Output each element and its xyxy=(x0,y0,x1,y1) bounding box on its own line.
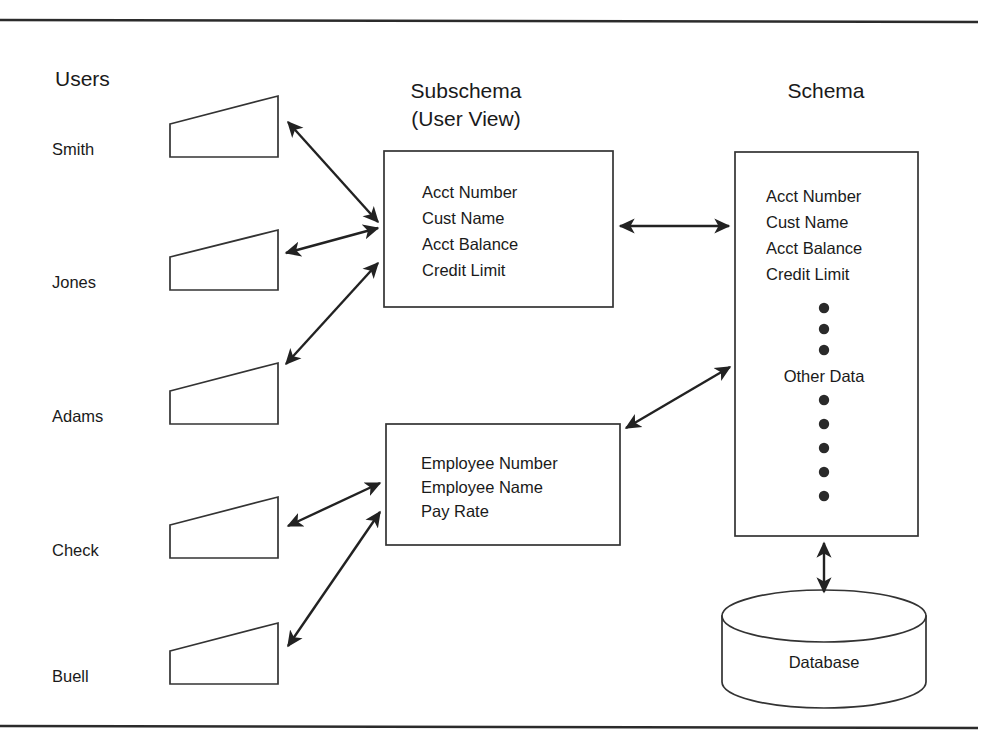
user-label-check: Check xyxy=(52,541,100,559)
terminal-check xyxy=(170,497,278,558)
connector-smith-subschema xyxy=(288,122,378,222)
schema-other-data-label: Other Data xyxy=(784,367,866,385)
employee-field-1: Employee Name xyxy=(421,478,543,496)
user-label-jones: Jones xyxy=(52,273,96,291)
schema-field-2: Acct Balance xyxy=(766,239,862,257)
user-label-adams: Adams xyxy=(52,407,103,425)
subschema-field-1: Cust Name xyxy=(422,209,505,227)
schema-ellipsis-dot-lower-2 xyxy=(819,419,829,429)
subschema-box xyxy=(384,151,613,307)
terminal-adams xyxy=(170,363,278,424)
connector-jones-subschema xyxy=(286,228,378,253)
user-label-buell: Buell xyxy=(52,667,89,685)
schema-ellipsis-dot-upper-1 xyxy=(819,303,829,313)
subschema-heading-line2: (User View) xyxy=(411,107,520,130)
schema-field-0: Acct Number xyxy=(766,187,862,205)
schema-ellipsis-dot-lower-5 xyxy=(819,491,829,501)
terminal-smith xyxy=(170,96,278,157)
schema-field-1: Cust Name xyxy=(766,213,849,231)
subschema-field-0: Acct Number xyxy=(422,183,518,201)
subschema-heading-line1: Subschema xyxy=(411,79,522,102)
users-column-heading: Users xyxy=(55,67,110,90)
subschema-field-2: Acct Balance xyxy=(422,235,518,253)
employee-field-2: Pay Rate xyxy=(421,502,489,520)
connector-adams-subschema xyxy=(286,263,378,364)
schema-diagram-figure: Users Subschema (User View) Schema Smith… xyxy=(0,0,984,745)
schema-ellipsis-dot-lower-4 xyxy=(819,467,829,477)
connector-employee-schema xyxy=(626,367,730,428)
database-label: Database xyxy=(789,653,860,671)
schema-ellipsis-dot-lower-3 xyxy=(819,443,829,453)
schema-box xyxy=(735,152,918,536)
user-label-smith: Smith xyxy=(52,140,94,158)
schema-ellipsis-dot-upper-3 xyxy=(819,345,829,355)
schema-ellipsis-dot-lower-1 xyxy=(819,395,829,405)
terminal-jones xyxy=(170,230,278,290)
database-cylinder-top xyxy=(722,590,926,642)
bottom-rule xyxy=(0,726,978,728)
top-rule xyxy=(0,20,978,22)
schema-heading: Schema xyxy=(787,79,864,102)
terminal-buell xyxy=(170,623,278,684)
connector-check-employee xyxy=(288,483,380,526)
employee-field-0: Employee Number xyxy=(421,454,558,472)
diagram-canvas: Users Subschema (User View) Schema Smith… xyxy=(0,0,984,745)
schema-ellipsis-dot-upper-2 xyxy=(819,324,829,334)
connector-buell-employee xyxy=(288,512,380,646)
subschema-field-3: Credit Limit xyxy=(422,261,506,279)
schema-field-3: Credit Limit xyxy=(766,265,850,283)
